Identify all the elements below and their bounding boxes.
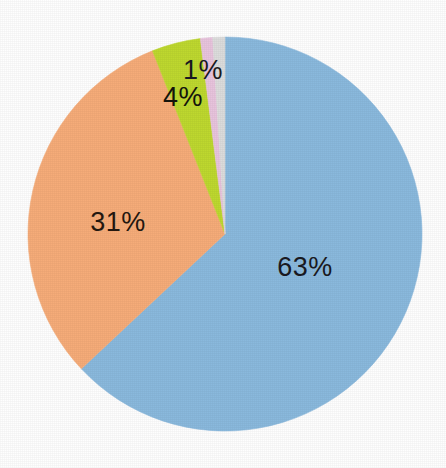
- slice-green-label: 4%: [163, 84, 203, 111]
- slice-pink-label: 1%: [183, 57, 223, 84]
- pie-slice-group: [28, 37, 422, 431]
- slice-orange-label: 31%: [90, 209, 146, 236]
- pie-chart: 63%31%4%1%: [0, 0, 446, 468]
- slice-blue-label: 63%: [277, 254, 333, 281]
